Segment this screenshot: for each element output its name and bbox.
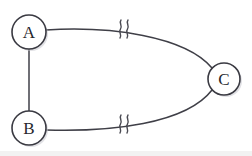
bottom-edge-band: [0, 151, 252, 156]
node-c-label: C: [218, 70, 229, 89]
node-b[interactable]: B: [12, 111, 48, 147]
break-squiggle-icon: [127, 20, 129, 38]
break-symbol-top: [120, 20, 129, 38]
edge-a-c: [46, 29, 212, 68]
node-a[interactable]: A: [12, 15, 48, 51]
node-b-label: B: [23, 119, 34, 138]
node-a-label: A: [23, 23, 36, 42]
break-squiggle-icon: [120, 115, 122, 133]
node-c[interactable]: C: [208, 63, 242, 97]
edge-b-c: [46, 90, 212, 130]
graph-svg: A B C: [0, 0, 252, 156]
break-squiggle-icon: [120, 20, 122, 38]
graph-diagram-canvas: A B C: [0, 0, 252, 156]
break-squiggle-icon: [127, 115, 129, 133]
break-symbol-bottom: [120, 115, 129, 133]
